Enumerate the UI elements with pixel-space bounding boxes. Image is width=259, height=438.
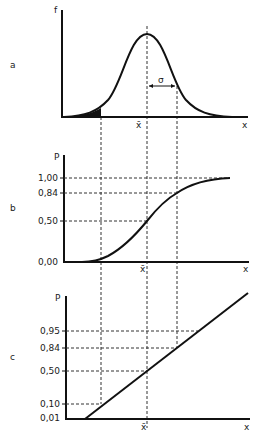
- x-axis-label-a: x: [242, 120, 248, 130]
- mean-label-b: x̄: [140, 264, 146, 274]
- y-axis-label-b: P: [54, 152, 60, 162]
- panel-label-c: c: [10, 352, 15, 362]
- tick-label-0-95: 0,95: [40, 326, 60, 336]
- tick-label-0-50: 0,50: [40, 366, 60, 376]
- sigma-arrow-right-head-icon: [171, 84, 175, 88]
- mean-label-c: x̄: [141, 422, 147, 432]
- panel-label-b: b: [10, 203, 16, 213]
- tick-label-0-10: 0,10: [40, 399, 60, 409]
- tick-label-0-00: 0,00: [38, 257, 58, 267]
- density-curve: [64, 34, 232, 117]
- tick-label-0-50: 0,50: [38, 216, 58, 226]
- sigma-label: σ: [158, 75, 164, 85]
- y-axis-label-a: f: [54, 5, 58, 15]
- normal-distribution-figure: a f x x̄ σ b P x x̄ 1,00 0,84 0,50 0,00: [0, 0, 259, 438]
- cumulative-curve: [82, 178, 230, 262]
- x-axis-label-b: x: [243, 264, 249, 274]
- tick-label-0-01: 0,01: [40, 413, 60, 423]
- mean-label-a: x̄: [136, 120, 142, 130]
- tick-label-0-84: 0,84: [40, 343, 60, 353]
- tick-label-1-00: 1,00: [38, 173, 58, 183]
- x-axis-label-c: x: [244, 422, 250, 432]
- panel-a: a f x x̄ σ: [10, 5, 248, 130]
- panel-c: c P x x̄ 0,95 0,84 0,50 0,10 0,01: [10, 293, 250, 432]
- sigma-arrow-left-head-icon: [149, 84, 153, 88]
- tick-label-0-84: 0,84: [38, 188, 58, 198]
- y-axis-label-c: P: [55, 293, 61, 303]
- probability-line: [85, 293, 248, 419]
- panel-b: b P x x̄ 1,00 0,84 0,50 0,00: [10, 152, 249, 274]
- panel-label-a: a: [10, 60, 16, 70]
